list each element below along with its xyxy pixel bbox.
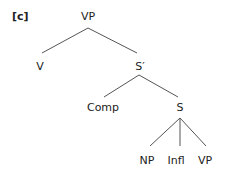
node-comp: Comp <box>87 101 119 114</box>
node-np: NP <box>140 154 155 167</box>
tree-edges <box>0 0 238 177</box>
node-vp-leaf: VP <box>198 154 212 167</box>
node-vp-root: VP <box>81 10 95 23</box>
figure-label: [c] <box>12 10 29 23</box>
node-infl: Infl <box>167 154 184 167</box>
edge-vp-v <box>42 28 88 53</box>
edge-sbar-s <box>139 75 178 97</box>
node-v: V <box>36 60 44 73</box>
edge-s-np <box>150 118 180 146</box>
edge-vp-sbar <box>88 28 137 53</box>
edge-sbar-comp <box>104 75 139 97</box>
edge-s-vp <box>180 118 206 146</box>
node-s: S <box>177 101 184 114</box>
node-s-bar: S′ <box>135 60 144 73</box>
